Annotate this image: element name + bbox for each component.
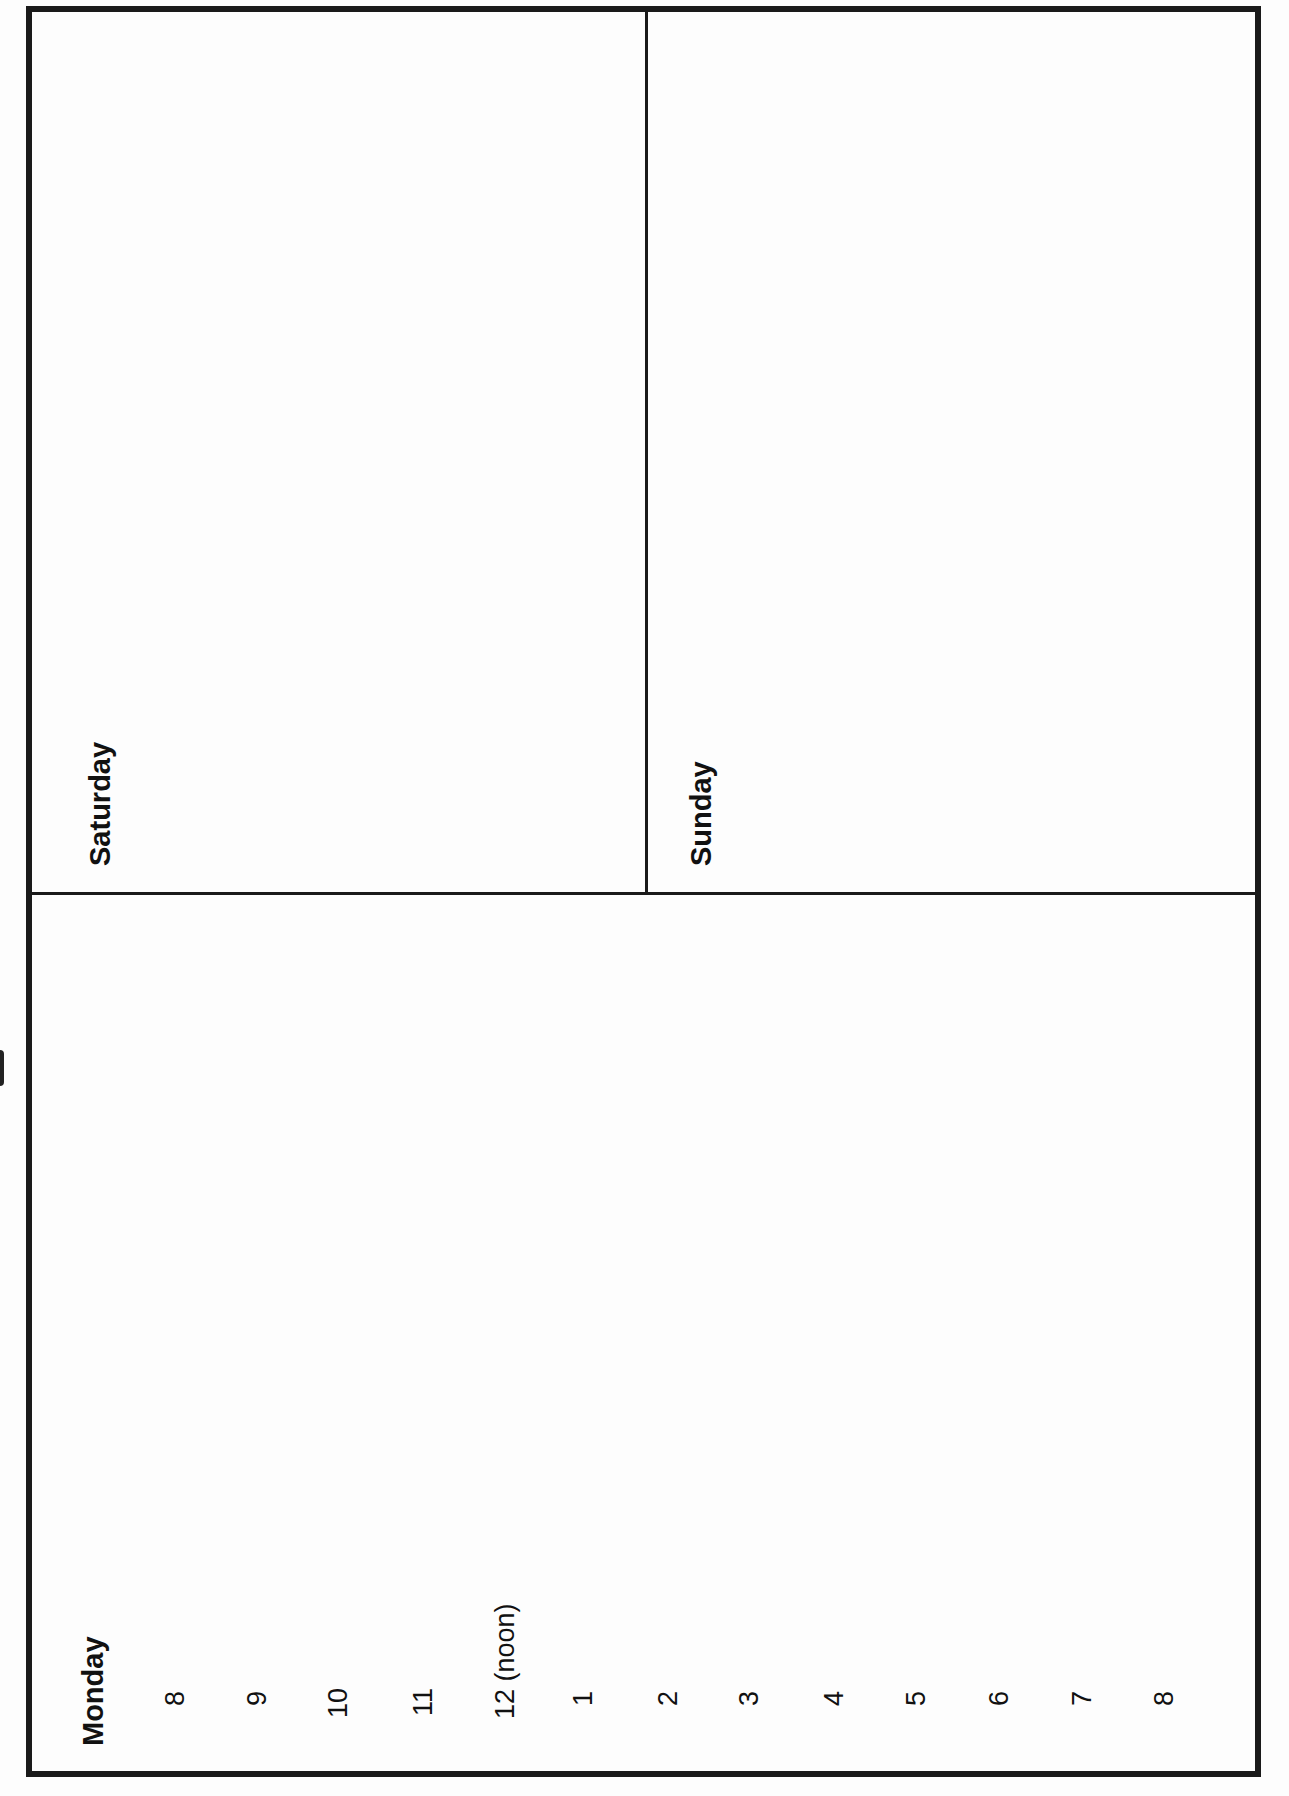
hour-label: 8: [162, 1691, 189, 1706]
weekend-divider: [645, 9, 648, 893]
hour-label: 10: [325, 1688, 352, 1718]
sunday-label: Sunday: [687, 761, 716, 866]
hour-label: 3: [736, 1691, 763, 1706]
hour-label: 11: [410, 1688, 437, 1716]
hour-label: 2: [655, 1691, 682, 1706]
hour-label: 4: [821, 1691, 848, 1706]
hour-label: 8: [1151, 1691, 1178, 1706]
hour-label: 6: [986, 1691, 1013, 1706]
clipped-edge-mark: [0, 1050, 4, 1086]
saturday-label: Saturday: [86, 742, 115, 866]
hour-label-noon: 12 (noon): [492, 1603, 519, 1719]
hour-label: 9: [244, 1691, 271, 1706]
hour-label: 1: [570, 1691, 597, 1706]
hour-label: 7: [1069, 1691, 1096, 1706]
hour-label: 5: [903, 1691, 930, 1706]
monday-label: Monday: [79, 1636, 108, 1746]
section-divider: [30, 892, 1258, 895]
